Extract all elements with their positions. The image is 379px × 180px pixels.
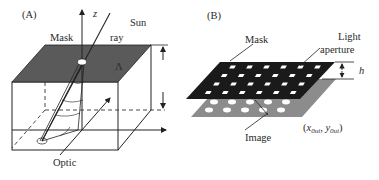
optic-axis-arrow	[60, 98, 110, 155]
figure-canvas: (A)	[0, 0, 379, 180]
ray-label: ray	[110, 32, 124, 43]
mask-label-a: Mask	[50, 32, 74, 43]
hidden-edge-diagonal	[12, 110, 45, 148]
image-label: Image	[245, 132, 272, 143]
panel-b-label: (B)	[207, 10, 222, 22]
mask-label-b: Mask	[245, 34, 269, 45]
angle-arc-2	[62, 100, 83, 102]
aperture-hole	[78, 59, 87, 65]
aperture-label: aperture	[320, 44, 355, 55]
aperture-symbol-label: Λ	[115, 61, 123, 72]
panel-a-label: (A)	[22, 9, 37, 21]
angle-arc-3	[55, 113, 80, 116]
optic-label: Optic	[53, 157, 77, 168]
mask-leader-line	[230, 44, 253, 61]
panel-b: (B)	[186, 10, 364, 143]
h-label: h	[359, 65, 364, 76]
panel-a: (A)	[12, 8, 168, 168]
coordinate-label: (x0ui, y0ui)	[303, 122, 343, 135]
sun-label: Sun	[130, 17, 147, 28]
z-axis-label: z	[92, 8, 97, 19]
light-label: Light	[338, 31, 361, 42]
